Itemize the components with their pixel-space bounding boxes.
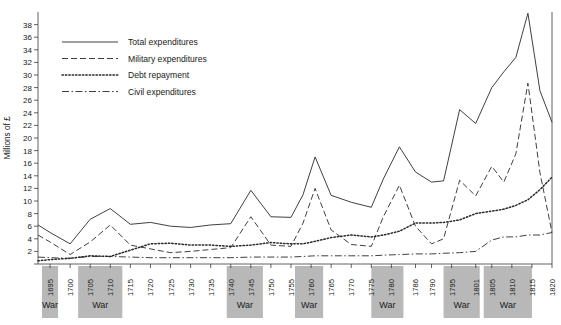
y-tick-label: 10 [23, 197, 32, 206]
y-tick-label: 2 [28, 247, 33, 256]
y-tick-label: 14 [23, 172, 32, 181]
war-band-label: War [92, 300, 108, 310]
y-tick-label: 16 [23, 159, 32, 168]
x-tick-label: 1695 [46, 279, 55, 296]
series-line-debt-repayment [38, 177, 552, 261]
x-tick-label: 1795 [448, 279, 457, 296]
x-tick-label: 1710 [106, 279, 115, 296]
y-tick-label: 36 [23, 33, 32, 42]
chart-legend: Total expendituresMilitary expendituresD… [62, 37, 207, 96]
x-tick-label: 1775 [367, 279, 376, 296]
x-tick-label: 1815 [528, 279, 537, 296]
x-tick-label: 1705 [86, 279, 95, 296]
legend-label: Military expenditures [128, 54, 207, 64]
y-tick-label: 12 [23, 184, 32, 193]
x-tick-label: 1801 [472, 279, 481, 296]
y-tick-label: 4 [28, 235, 33, 244]
legend-label: Total expenditures [128, 37, 198, 47]
x-tick-label: 1745 [247, 279, 256, 296]
series-line-military-expenditures [38, 83, 552, 254]
y-tick-label: 26 [23, 96, 32, 105]
series-line-total-expenditures [38, 13, 552, 244]
legend-label: Debt repayment [128, 70, 190, 80]
x-tick-label: 1770 [347, 279, 356, 296]
y-tick-label: 32 [23, 58, 32, 67]
y-tick-label: 6 [28, 222, 33, 231]
x-tick-label: 1790 [428, 279, 437, 296]
y-tick-label: 30 [23, 71, 32, 80]
y-tick-label: 22 [23, 121, 32, 130]
x-tick-label: 1730 [187, 279, 196, 296]
chart-canvas: WarWarWarWarWarWarWar 246810121416182022… [0, 0, 561, 325]
war-band-label: War [454, 300, 470, 310]
x-tick-label: 1735 [207, 279, 216, 296]
war-band-label: War [500, 300, 516, 310]
y-axis-ticks: 2468101214161820222426283032343638 [23, 21, 38, 264]
x-tick-label: 1810 [508, 279, 517, 296]
y-axis-title: Millions of £ [3, 116, 12, 160]
y-tick-label: 20 [23, 134, 32, 143]
y-tick-label: 24 [23, 109, 32, 118]
x-tick-label: 1780 [387, 279, 396, 296]
x-tick-label: 1765 [327, 279, 336, 296]
x-tick-label: 1715 [126, 279, 135, 296]
y-axis-label: Millions of £ [3, 116, 12, 160]
y-tick-label: 34 [23, 46, 32, 55]
war-band-label: War [237, 300, 253, 310]
x-tick-label: 1755 [287, 279, 296, 296]
data-series-group [38, 13, 552, 261]
x-tick-label: 1820 [548, 279, 557, 296]
x-tick-label: 1725 [167, 279, 176, 296]
legend-label: Civil expenditures [128, 87, 196, 97]
y-tick-label: 8 [28, 210, 33, 219]
x-tick-label: 1720 [146, 279, 155, 296]
x-tick-label: 1750 [267, 279, 276, 296]
y-tick-label: 38 [23, 21, 32, 30]
war-band-label: War [301, 300, 317, 310]
war-band-label: War [42, 300, 58, 310]
war-band [78, 266, 122, 318]
x-tick-label: 1740 [227, 279, 236, 296]
y-tick-label: 28 [23, 84, 32, 93]
x-tick-label: 1786 [411, 279, 420, 296]
war-band-label: War [379, 300, 395, 310]
expenditures-chart-figure: WarWarWarWarWarWarWar 246810121416182022… [0, 0, 561, 325]
x-tick-label: 1805 [488, 279, 497, 296]
x-tick-label: 1700 [66, 279, 75, 296]
x-tick-label: 1760 [307, 279, 316, 296]
y-tick-label: 18 [23, 147, 32, 156]
chart-axes [38, 12, 552, 264]
